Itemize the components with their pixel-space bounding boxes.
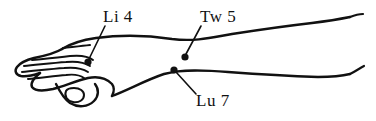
point-dot-lu7 (170, 66, 177, 73)
finger-crease-3 (22, 68, 88, 72)
point-label-li4: Li 4 (103, 8, 133, 25)
leader-line-lu7 (176, 72, 196, 94)
hand-outline (16, 45, 114, 106)
forearm-bottom-contour (112, 70, 350, 96)
point-label-tw5: Tw 5 (200, 8, 236, 25)
leader-line-li4 (89, 26, 105, 59)
point-dot-li4 (84, 58, 91, 65)
finger-crease-2 (24, 62, 90, 66)
point-dot-tw5 (181, 53, 188, 60)
point-label-lu7: Lu 7 (196, 92, 230, 109)
forearm-top-end-hook (350, 14, 363, 17)
thumbnail (65, 88, 84, 102)
hand-forearm-line-drawing (0, 0, 376, 121)
acupuncture-point-figure: Line drawing of a left hand and forearm … (0, 0, 376, 121)
point-markers (84, 53, 188, 73)
forearm-bottom-end-hook (350, 66, 364, 74)
forearm-outline (62, 14, 364, 96)
